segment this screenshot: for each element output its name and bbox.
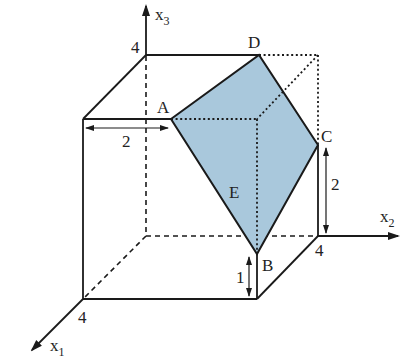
axis-x2-tick: 4 bbox=[315, 241, 324, 260]
plane-e-label: E bbox=[229, 183, 239, 202]
edge-top-left-diagonal bbox=[83, 55, 146, 119]
axis-x3-tick: 4 bbox=[131, 38, 140, 57]
dimension-label-c: 2 bbox=[331, 175, 340, 194]
diagram-canvas: x3 x2 x1 4 4 4 A B C D E 2 2 1 bbox=[0, 0, 415, 363]
dimension-label-top: 2 bbox=[122, 132, 131, 151]
axis-x1-tick: 4 bbox=[78, 308, 87, 327]
point-d-label: D bbox=[248, 33, 260, 52]
axis-x2-label: x2 bbox=[380, 207, 395, 230]
hidden-edge-x1 bbox=[84, 236, 146, 298]
point-c-label: C bbox=[321, 127, 332, 146]
dimension-label-b: 1 bbox=[236, 268, 245, 287]
axis-x1-label: x1 bbox=[50, 336, 65, 359]
axis-x3-label: x3 bbox=[155, 5, 170, 28]
point-a-label: A bbox=[157, 98, 170, 117]
point-b-label: B bbox=[262, 256, 273, 275]
